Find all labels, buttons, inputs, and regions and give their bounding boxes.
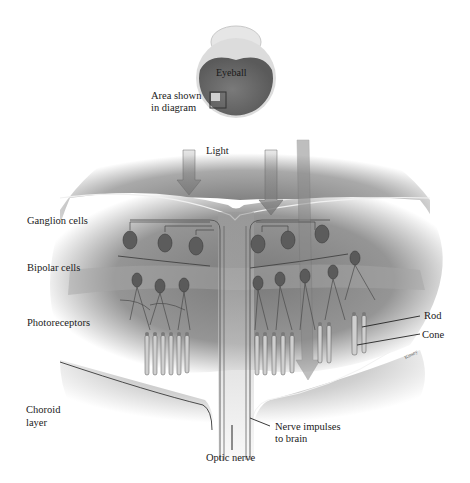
choroid-label: Choroid bbox=[26, 404, 60, 416]
ganglion-cells-label: Ganglion cells bbox=[27, 215, 88, 227]
eyeball-label: Eyeball bbox=[216, 67, 247, 79]
cone-label: Cone bbox=[422, 329, 444, 341]
nerve-impulses-label-2: to brain bbox=[275, 433, 307, 445]
area-shown-label: Area shown bbox=[151, 90, 201, 102]
optic-nerve-label: Optic nerve bbox=[206, 452, 255, 464]
nerve-impulses-label: Nerve impulses bbox=[275, 421, 341, 433]
rod-label: Rod bbox=[424, 310, 442, 322]
retina-diagram: Eyeball Area shown in diagram Light Gang… bbox=[0, 0, 470, 483]
area-shown-label-2: in diagram bbox=[151, 102, 196, 114]
light-label: Light bbox=[206, 145, 229, 157]
choroid-label-2: layer bbox=[26, 417, 47, 429]
bipolar-cells-label: Bipolar cells bbox=[27, 262, 80, 274]
photoreceptors-label: Photoreceptors bbox=[27, 317, 90, 329]
